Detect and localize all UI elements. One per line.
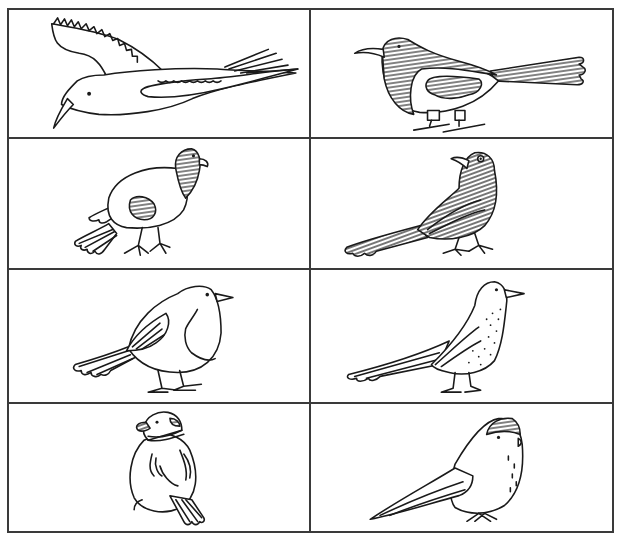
- thrush-illustration: [311, 270, 612, 402]
- bird-illustration-grid: [7, 8, 614, 533]
- cell-tit: [311, 404, 612, 531]
- cell-robin: [9, 270, 311, 404]
- cell-sparrow: [9, 404, 311, 531]
- cell-blackbird: [311, 139, 612, 270]
- tit-illustration: [311, 404, 612, 531]
- robin-illustration: [9, 270, 309, 402]
- cell-seagull: [9, 10, 311, 139]
- sparrow-illustration: [9, 404, 309, 531]
- cell-magpie: [311, 10, 612, 139]
- magpie-illustration: [311, 10, 612, 137]
- pigeon-illustration: [9, 139, 309, 268]
- cell-thrush: [311, 270, 612, 404]
- blackbird-illustration: [311, 139, 612, 268]
- cell-pigeon: [9, 139, 311, 270]
- seagull-illustration: [9, 10, 309, 137]
